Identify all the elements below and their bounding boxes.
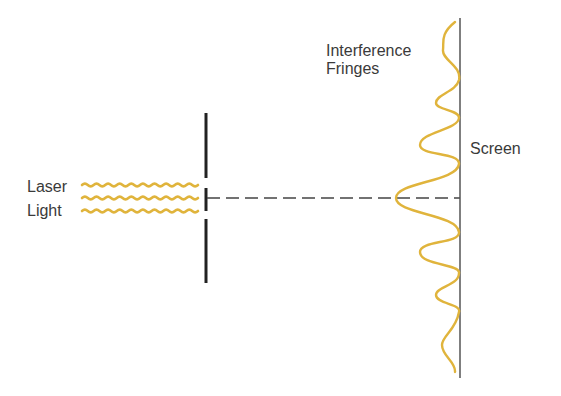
laser-label-line2: Light (27, 202, 62, 219)
diagram-canvas (0, 0, 561, 396)
interference-fringes-curve (396, 22, 459, 372)
fringes-label-line2: Fringes (326, 60, 379, 77)
laser-beam-2 (82, 197, 198, 200)
laser-label-line1: Laser (27, 178, 67, 195)
laser-beams (82, 184, 198, 213)
screen-label: Screen (470, 140, 521, 157)
laser-beam-1 (82, 184, 198, 187)
fringes-label-line1: Interference (326, 42, 411, 59)
laser-beam-3 (82, 210, 198, 213)
